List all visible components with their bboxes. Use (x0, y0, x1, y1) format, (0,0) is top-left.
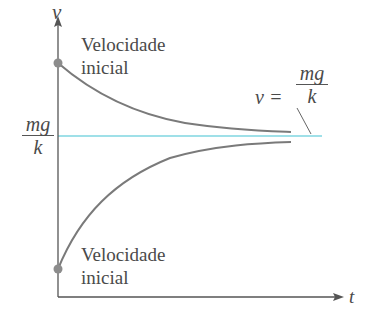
lower-annotation-line1: Velocidade (81, 244, 165, 265)
right-terminal-lhs: v = (255, 87, 282, 108)
left-fraction-numerator: mg (22, 114, 54, 134)
right-terminal-fraction: mg k (296, 63, 328, 106)
left-fraction-denominator: k (22, 137, 54, 157)
diagram-canvas (0, 0, 371, 317)
right-fraction-numerator: mg (296, 63, 328, 83)
terminal-label-leader (297, 108, 311, 134)
lower-initial-point (54, 265, 63, 274)
upper-annotation-line1: Velocidade (81, 34, 165, 55)
left-terminal-fraction: mg k (22, 114, 54, 157)
lower-annotation-line2: inicial (81, 267, 128, 288)
y-axis-label: v (52, 2, 61, 23)
x-axis-label: t (349, 286, 354, 307)
right-fraction-denominator: k (296, 86, 328, 106)
upper-annotation-line2: inicial (81, 57, 128, 78)
upper-initial-point (54, 59, 63, 68)
